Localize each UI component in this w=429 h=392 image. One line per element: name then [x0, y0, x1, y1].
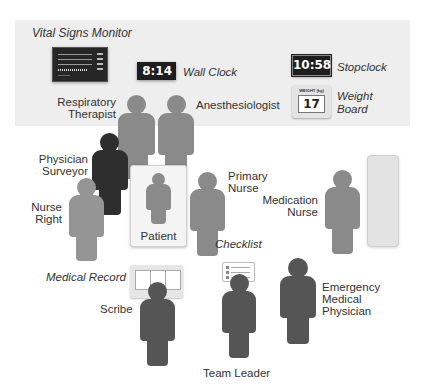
physician-surveyor-label-2: Surveyor: [26, 165, 88, 177]
emergency-medical-physician-label-3: Physician: [322, 305, 371, 317]
respiratory-therapist-label-2: Therapist: [50, 108, 116, 120]
patient-label: Patient: [131, 230, 186, 242]
scribe-figure: [140, 282, 175, 366]
medication-nurse-label-2: Nurse: [250, 206, 318, 218]
nurse-right-figure: [69, 178, 104, 261]
weight-caption: WEIGHT (kg): [292, 88, 331, 93]
emergency-medical-physician-label-2: Medical: [322, 293, 362, 305]
checklist-label: Checklist: [215, 238, 262, 250]
stopclock-label: Stopclock: [337, 61, 387, 73]
wall-clock-label: Wall Clock: [183, 66, 237, 78]
scribe-label: Scribe: [100, 303, 133, 315]
weight-board: WEIGHT (kg) 17: [292, 85, 331, 118]
team-leader-figure: [222, 274, 256, 358]
nurse-right-label-1: Nurse: [20, 201, 62, 213]
stretcher-icon: [367, 155, 399, 247]
vital-signs-monitor-label: Vital Signs Monitor: [32, 27, 132, 39]
weight-board-label-2: Board: [337, 103, 368, 115]
vital-signs-monitor-icon: [52, 47, 108, 82]
medical-record-label: Medical Record: [46, 271, 126, 283]
patient-bed-card: Patient: [130, 165, 187, 247]
emergency-medical-physician-figure: [280, 258, 316, 344]
anesthesiologist-label: Anesthesiologist: [196, 99, 280, 111]
emergency-medical-physician-label-1: Emergency: [322, 281, 380, 293]
respiratory-therapist-label-1: Respiratory: [50, 96, 116, 108]
weight-board-label-1: Weight: [337, 90, 373, 102]
primary-nurse-label-1: Primary: [228, 170, 268, 182]
medication-nurse-figure: [325, 170, 360, 254]
physician-surveyor-label-1: Physician: [26, 153, 88, 165]
patient-figure: [146, 173, 171, 223]
weight-value: 17: [298, 95, 325, 113]
primary-nurse-label-2: Nurse: [228, 182, 259, 194]
nurse-right-label-2: Right: [20, 213, 62, 225]
stopclock-display: 10:58: [292, 55, 331, 76]
wall-clock-display: 8:14: [137, 62, 176, 80]
team-leader-label: Team Leader: [203, 367, 270, 379]
medication-nurse-label-1: Medication: [250, 194, 318, 206]
